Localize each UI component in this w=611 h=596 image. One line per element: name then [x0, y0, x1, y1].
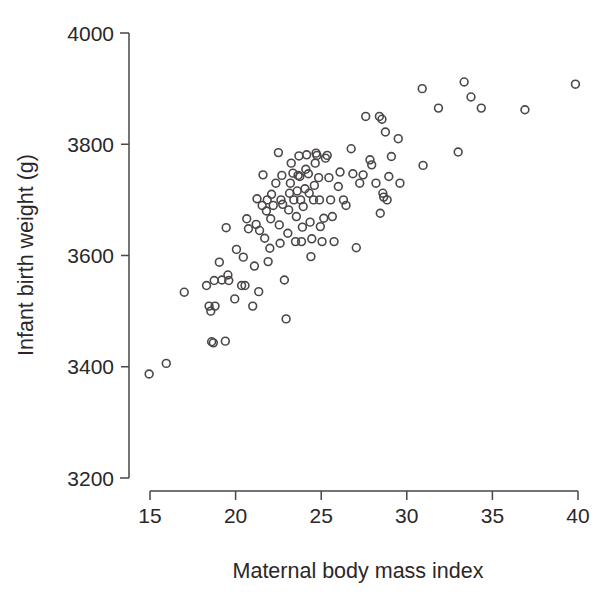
data-point [387, 153, 395, 161]
data-point [245, 225, 253, 233]
data-point [318, 238, 326, 246]
data-point [328, 213, 336, 221]
data-point [308, 235, 316, 243]
data-point [298, 223, 306, 231]
data-point [275, 221, 283, 229]
data-point [255, 288, 263, 296]
data-point [330, 238, 338, 246]
data-points-group [145, 78, 579, 378]
data-point [368, 161, 376, 169]
data-point [336, 168, 344, 176]
scatter-plot-figure: 32003400360038004000 152025303540 Matern… [0, 0, 611, 596]
data-point [284, 229, 292, 237]
data-point [231, 295, 239, 303]
data-point [162, 360, 170, 368]
data-point [215, 258, 223, 266]
data-point [460, 78, 468, 86]
y-tick-label: 4000 [67, 22, 114, 45]
data-point [334, 183, 342, 191]
data-point [316, 223, 324, 231]
y-tick-label: 3600 [67, 244, 114, 267]
data-point [275, 149, 283, 157]
data-point [311, 159, 319, 167]
data-point [385, 173, 393, 181]
data-point [256, 227, 264, 235]
x-tick-labels: 152025303540 [138, 504, 589, 527]
data-point [207, 307, 215, 315]
data-point [210, 277, 218, 285]
x-tick-label: 30 [395, 504, 418, 527]
x-tick-marks [236, 491, 493, 500]
data-point [292, 213, 300, 221]
data-point [310, 182, 318, 190]
data-point [307, 253, 315, 261]
y-axis-title: Infant birth weight (g) [14, 154, 38, 356]
data-point [145, 370, 153, 378]
data-point [359, 171, 367, 179]
data-point [221, 337, 229, 345]
data-point [303, 151, 311, 159]
data-point [259, 171, 267, 179]
data-point [366, 156, 374, 164]
data-point [418, 85, 426, 93]
data-point [222, 224, 230, 232]
x-axis-title: Maternal body mass index [233, 559, 484, 583]
data-point [251, 262, 259, 270]
data-point [376, 209, 384, 217]
data-point [572, 80, 580, 88]
x-tick-label: 15 [138, 504, 161, 527]
y-tick-label: 3800 [67, 133, 114, 156]
x-tick-label: 40 [566, 504, 589, 527]
y-tick-label: 3400 [67, 355, 114, 378]
y-tick-marks [121, 144, 129, 367]
data-point [327, 196, 335, 204]
data-point [249, 302, 257, 310]
data-point [394, 135, 402, 143]
data-point [325, 174, 333, 182]
data-point [280, 276, 288, 284]
data-point [477, 104, 485, 112]
data-point [286, 179, 294, 187]
data-point [467, 93, 475, 101]
data-point [356, 179, 364, 187]
data-point [521, 106, 529, 114]
data-point [243, 215, 251, 223]
data-point [285, 206, 293, 214]
data-point [372, 179, 380, 187]
data-point [203, 282, 211, 290]
data-point [295, 152, 303, 160]
x-axis: 152025303540 [138, 491, 589, 527]
data-point [268, 190, 276, 198]
data-point [419, 161, 427, 169]
data-point [347, 145, 355, 153]
data-point [349, 170, 357, 178]
data-point [396, 179, 404, 187]
data-point [278, 172, 286, 180]
data-point [435, 104, 443, 112]
x-tick-label: 35 [481, 504, 504, 527]
data-point [272, 179, 280, 187]
data-point [454, 148, 462, 156]
data-point [362, 113, 370, 121]
data-point [306, 218, 314, 226]
y-axis: 32003400360038004000 [67, 22, 129, 490]
data-point [269, 202, 277, 210]
data-point [239, 253, 247, 261]
data-point [320, 214, 328, 222]
y-tick-labels: 32003400360038004000 [67, 22, 114, 490]
data-point [180, 288, 188, 296]
data-point [352, 244, 360, 252]
data-point [293, 187, 301, 195]
y-tick-label: 3200 [67, 467, 114, 490]
data-point [233, 245, 241, 253]
data-point [261, 234, 269, 242]
data-point [276, 239, 284, 247]
data-point [267, 215, 275, 223]
data-point [287, 159, 295, 167]
data-point [282, 315, 290, 323]
data-point [382, 128, 390, 136]
data-point [266, 244, 274, 252]
data-point [315, 174, 323, 182]
plot-canvas: 32003400360038004000 152025303540 Matern… [0, 0, 611, 596]
x-axis-line [150, 491, 578, 500]
